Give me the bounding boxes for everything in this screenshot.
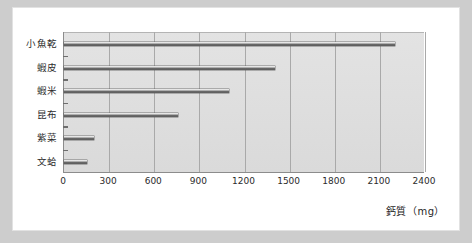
x-axis-label: 300 (100, 176, 117, 186)
bar-row (64, 103, 424, 127)
screenshot-root: 小魚乾蝦皮蝦米昆布紫菜文蛤 03006009001200150018002100… (0, 0, 472, 243)
x-axis-label: 2400 (413, 176, 436, 186)
y-axis-tick (63, 103, 68, 105)
bar-row (64, 150, 424, 174)
bar-row (64, 126, 424, 150)
bar (64, 136, 94, 140)
x-axis-label: 600 (145, 176, 162, 186)
y-axis-tick (63, 79, 68, 81)
bar-series (64, 32, 424, 172)
bar (64, 89, 229, 93)
bar-row (64, 56, 424, 80)
y-axis-label: 文蛤 (37, 150, 58, 174)
y-axis-tick (63, 126, 68, 128)
bar (64, 160, 87, 164)
chart-card: 小魚乾蝦皮蝦米昆布紫菜文蛤 03006009001200150018002100… (13, 8, 459, 230)
bar (64, 42, 395, 46)
y-axis-label: 小魚乾 (26, 32, 58, 56)
bar (64, 113, 178, 117)
gridline (425, 32, 426, 172)
bar-chart: 小魚乾蝦皮蝦米昆布紫菜文蛤 03006009001200150018002100… (13, 8, 459, 230)
y-axis-label: 蝦米 (37, 79, 58, 103)
bar-row (64, 32, 424, 56)
x-axis-labels: 030060090012001500180021002400 (13, 176, 459, 190)
y-axis-tick (63, 150, 68, 152)
y-axis-label: 昆布 (37, 103, 58, 127)
y-axis-label: 蝦皮 (37, 56, 58, 80)
bar-row (64, 79, 424, 103)
plot-area (63, 32, 424, 173)
y-axis-label: 紫菜 (37, 126, 58, 150)
x-axis-label: 0 (60, 176, 66, 186)
bar (64, 66, 275, 70)
x-axis-title: 鈣質（mg） (386, 203, 445, 218)
x-axis-label: 1800 (322, 176, 345, 186)
y-axis-labels: 小魚乾蝦皮蝦米昆布紫菜文蛤 (13, 32, 58, 173)
x-axis-label: 900 (190, 176, 207, 186)
x-axis-label: 1500 (277, 176, 300, 186)
x-axis-label: 1200 (232, 176, 255, 186)
x-axis-label: 2100 (367, 176, 390, 186)
y-axis-tick (63, 56, 68, 58)
